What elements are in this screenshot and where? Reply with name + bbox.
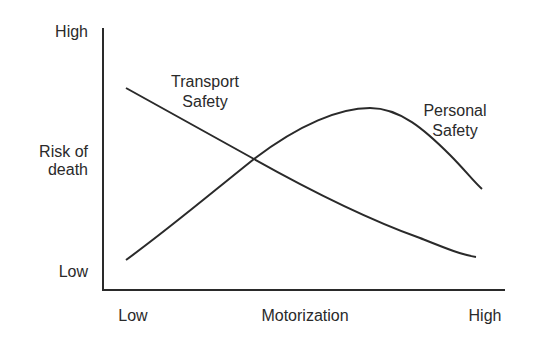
y-tick-high: High: [30, 22, 88, 41]
personal-safety-label-line2: Safety: [415, 121, 495, 140]
y-axis-title-line1: Risk of: [20, 142, 88, 161]
personal-safety-label-line1: Personal: [415, 101, 495, 120]
y-axis-title-line2: death: [20, 160, 88, 179]
transport-safety-label-line1: Transport: [160, 72, 250, 91]
y-tick-low: Low: [30, 262, 88, 281]
x-tick-low: Low: [108, 306, 158, 325]
transport-safety-label-line2: Safety: [160, 92, 250, 111]
x-axis-title: Motorization: [240, 306, 370, 325]
x-tick-high: High: [460, 306, 510, 325]
